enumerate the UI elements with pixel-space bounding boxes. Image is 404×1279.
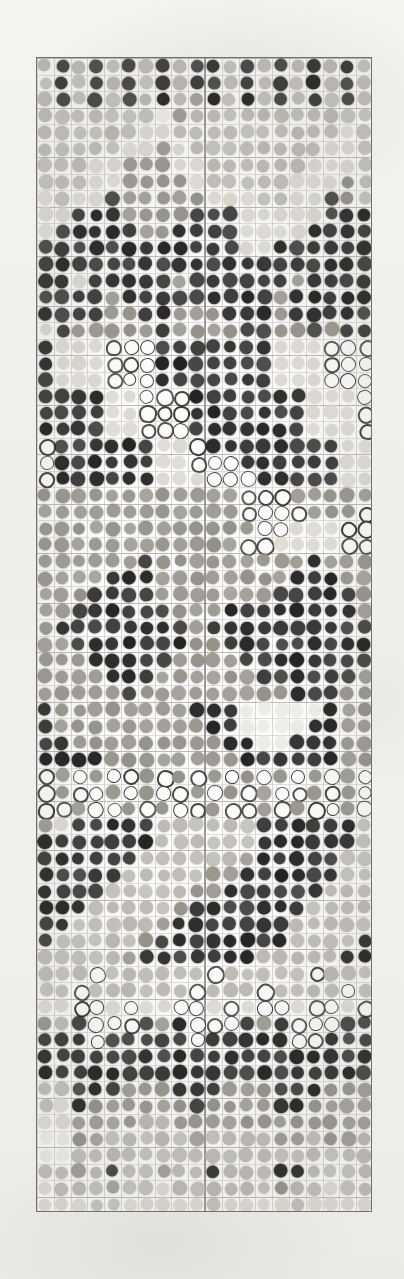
array-spot[interactable] (139, 587, 155, 603)
array-spot[interactable] (73, 439, 86, 452)
array-spot[interactable] (306, 75, 321, 90)
array-spot[interactable] (255, 1146, 273, 1164)
array-spot[interactable] (238, 651, 255, 668)
array-spot[interactable] (139, 141, 154, 156)
array-spot[interactable] (258, 835, 272, 849)
array-spot[interactable] (86, 784, 106, 804)
array-spot[interactable] (139, 192, 152, 205)
array-spot[interactable] (207, 934, 220, 947)
array-spot[interactable] (190, 884, 203, 897)
array-spot[interactable] (273, 1082, 288, 1097)
array-spot[interactable] (136, 1048, 155, 1067)
array-spot[interactable] (106, 1082, 120, 1096)
array-spot[interactable] (207, 76, 221, 90)
array-spot[interactable] (257, 652, 273, 668)
array-spot[interactable] (273, 156, 290, 173)
array-spot[interactable] (155, 255, 173, 273)
array-spot[interactable] (207, 323, 221, 337)
array-spot[interactable] (240, 208, 256, 224)
array-spot[interactable] (254, 222, 273, 241)
array-spot[interactable] (304, 205, 323, 224)
array-spot[interactable] (221, 568, 239, 586)
array-spot[interactable] (205, 1180, 224, 1199)
array-spot[interactable] (288, 850, 305, 867)
array-spot[interactable] (308, 125, 320, 137)
array-spot[interactable] (188, 124, 204, 140)
array-spot[interactable] (36, 1113, 54, 1131)
array-spot[interactable] (207, 1083, 220, 1096)
array-spot[interactable] (140, 901, 153, 914)
array-spot[interactable] (38, 932, 53, 947)
array-spot[interactable] (341, 718, 356, 733)
array-spot[interactable] (156, 190, 172, 206)
array-spot[interactable] (204, 1146, 223, 1165)
array-spot[interactable] (204, 650, 222, 668)
array-spot[interactable] (339, 849, 357, 867)
array-spot[interactable] (323, 636, 339, 652)
array-spot[interactable] (257, 504, 275, 522)
array-spot[interactable] (157, 1183, 169, 1195)
array-spot[interactable] (356, 223, 371, 238)
array-spot[interactable] (87, 917, 103, 933)
array-spot[interactable] (173, 917, 186, 930)
array-spot[interactable] (205, 802, 220, 817)
array-spot[interactable] (123, 917, 137, 931)
array-spot[interactable] (238, 190, 256, 208)
array-spot[interactable] (139, 818, 153, 832)
array-spot[interactable] (71, 933, 87, 949)
array-spot[interactable] (138, 240, 155, 257)
array-spot[interactable] (119, 817, 137, 835)
array-spot[interactable] (204, 750, 223, 769)
array-spot[interactable] (289, 90, 306, 107)
array-spot[interactable] (36, 487, 53, 504)
array-spot[interactable] (172, 108, 187, 123)
array-spot[interactable] (291, 274, 304, 287)
array-spot[interactable] (338, 831, 358, 851)
array-spot[interactable] (103, 651, 121, 669)
array-spot[interactable] (340, 934, 354, 948)
array-spot[interactable] (323, 422, 340, 439)
array-spot[interactable] (172, 438, 188, 454)
array-spot[interactable] (86, 651, 104, 669)
array-spot[interactable] (307, 357, 321, 371)
array-spot[interactable] (104, 735, 120, 751)
array-spot[interactable] (273, 1180, 290, 1197)
array-spot[interactable] (323, 536, 338, 551)
array-spot[interactable] (86, 372, 104, 390)
array-spot[interactable] (321, 304, 340, 323)
array-spot[interactable] (71, 1098, 85, 1112)
array-spot[interactable] (139, 1196, 154, 1211)
array-spot[interactable] (355, 832, 372, 851)
array-spot[interactable] (87, 868, 102, 883)
array-spot[interactable] (156, 505, 169, 518)
array-spot[interactable] (37, 650, 55, 668)
array-spot[interactable] (73, 275, 87, 289)
array-spot[interactable] (156, 455, 169, 468)
array-spot[interactable] (240, 933, 254, 947)
array-spot[interactable] (72, 223, 88, 239)
array-spot[interactable] (188, 1097, 205, 1114)
array-spot[interactable] (87, 1080, 103, 1096)
array-spot[interactable] (188, 174, 204, 190)
array-spot[interactable] (188, 652, 206, 670)
array-spot[interactable] (323, 851, 339, 867)
array-spot[interactable] (323, 1031, 340, 1048)
array-spot[interactable] (103, 189, 122, 208)
array-spot[interactable] (271, 289, 289, 307)
array-spot[interactable] (52, 189, 71, 208)
array-spot[interactable] (172, 306, 189, 323)
array-spot[interactable] (72, 1181, 86, 1195)
array-spot[interactable] (154, 1016, 171, 1033)
array-spot[interactable] (37, 802, 56, 821)
array-spot[interactable] (340, 636, 354, 650)
array-spot[interactable] (106, 340, 122, 356)
array-spot[interactable] (189, 784, 205, 800)
array-spot[interactable] (340, 620, 355, 635)
array-spot[interactable] (69, 58, 87, 76)
array-spot[interactable] (308, 192, 321, 205)
array-spot[interactable] (240, 852, 254, 866)
array-spot[interactable] (206, 290, 222, 306)
array-spot[interactable] (138, 849, 155, 866)
array-spot[interactable] (340, 750, 358, 768)
array-spot[interactable] (87, 338, 103, 354)
